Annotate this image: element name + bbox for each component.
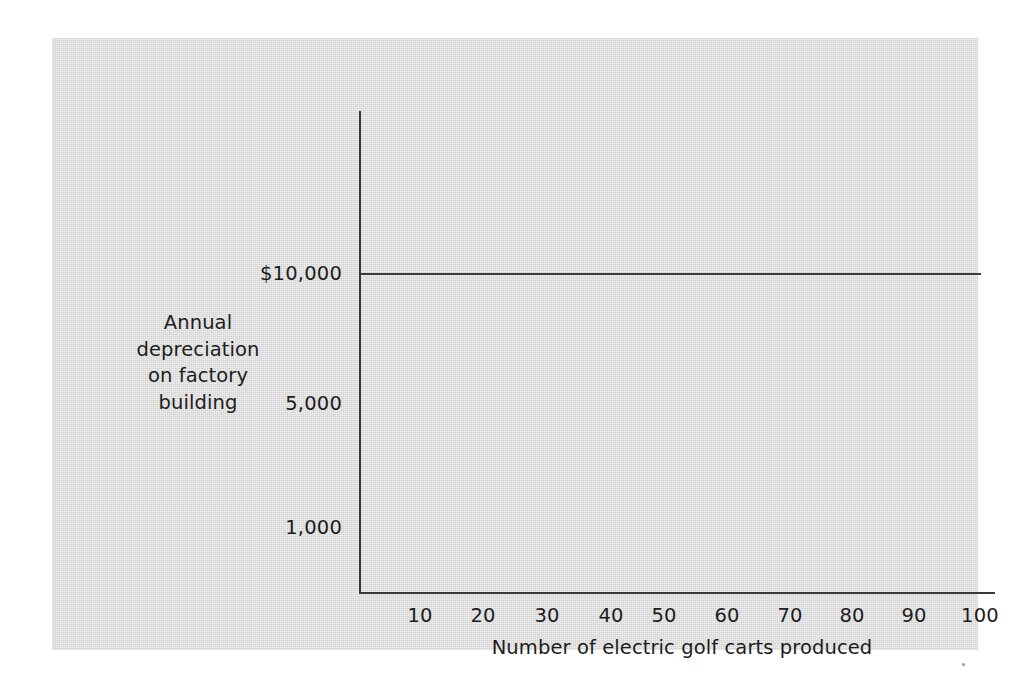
y-tick-label-10000: $10,000 — [152, 264, 342, 284]
x-tick-label-90: 90 — [884, 603, 944, 629]
x-tick-label-70: 70 — [760, 603, 820, 629]
x-tick-label-60: 60 — [697, 603, 757, 629]
y-axis-title-line-3: on factory — [124, 363, 272, 390]
fixed-cost-line — [360, 273, 981, 275]
x-tick-label-50: 50 — [634, 603, 694, 629]
y-axis-title: Annual depreciation on factory building — [124, 310, 272, 416]
y-axis-title-line-4: building — [124, 390, 272, 417]
x-tick-label-10: 10 — [390, 603, 450, 629]
x-axis-title: Number of electric golf carts produced — [359, 635, 1005, 661]
x-tick-label-20: 20 — [453, 603, 513, 629]
x-axis-line — [359, 592, 995, 594]
y-tick-label-1000: 1,000 — [152, 518, 342, 538]
x-tick-labels: 10 20 30 40 50 60 70 80 90 100 — [359, 603, 1016, 629]
x-tick-label-80: 80 — [822, 603, 882, 629]
chart-figure-panel: $10,000 5,000 1,000 Annual depreciation … — [52, 38, 978, 650]
y-axis-title-line-2: depreciation — [124, 337, 272, 364]
x-tick-label-40: 40 — [581, 603, 641, 629]
page-speck — [962, 663, 965, 666]
y-axis-title-line-1: Annual — [124, 310, 272, 337]
y-axis-line — [359, 111, 361, 594]
x-tick-label-30: 30 — [517, 603, 577, 629]
x-tick-label-100: 100 — [950, 603, 1010, 629]
